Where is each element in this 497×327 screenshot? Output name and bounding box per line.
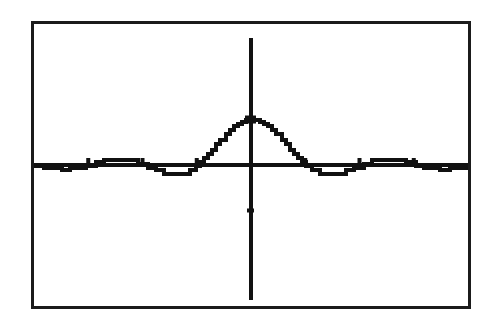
y-axis-ticks <box>247 208 254 212</box>
screenshot-root <box>0 0 497 327</box>
curve-peak-marker <box>245 116 256 124</box>
x-tick-mark <box>86 158 90 165</box>
graph-plot-area[interactable] <box>34 24 468 306</box>
x-tick-mark <box>358 158 362 165</box>
graph-canvas[interactable] <box>34 24 468 306</box>
y-tick-mark <box>247 208 254 212</box>
calculator-screen-frame <box>31 21 471 309</box>
